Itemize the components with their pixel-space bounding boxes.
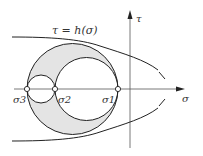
envelope-upper-dash: [159, 72, 165, 79]
point-sigma3: [24, 86, 29, 91]
sigma2-label: σ2: [58, 94, 71, 105]
sigma3-label: σ3: [13, 94, 26, 105]
tau-axis-arrow-icon: [128, 10, 133, 19]
sigma1-label: σ1: [102, 94, 115, 105]
tau-label: τ: [136, 13, 142, 24]
point-sigma2: [52, 86, 57, 91]
curve-label: τ = h(σ): [52, 24, 97, 37]
sigma-axis-arrow-icon: [176, 87, 185, 92]
sigma-label: σ: [182, 93, 190, 104]
mohr-diagram: τ = h(σ) τ σ σ3 σ2 σ1: [0, 0, 203, 156]
point-sigma1: [115, 86, 120, 91]
envelope-lower-dash: [159, 99, 165, 106]
